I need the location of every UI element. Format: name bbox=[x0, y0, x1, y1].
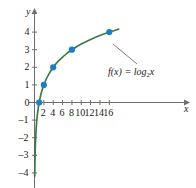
y-tick-label-1: 1 bbox=[25, 80, 30, 90]
y-tick-label--1: –1 bbox=[19, 115, 29, 125]
x-tick-label-8: 8 bbox=[69, 108, 74, 118]
data-point-8-3 bbox=[69, 47, 75, 53]
function-equation-label: f(x) = log2x bbox=[108, 67, 154, 78]
data-point-1-0 bbox=[36, 99, 42, 105]
y-tick-label-2: 2 bbox=[25, 62, 30, 72]
y-tick-label-4: 4 bbox=[25, 27, 30, 37]
logarithmic-function-figure: y x 246810121416 43210–1–2–3–4 f(x) = lo… bbox=[0, 0, 196, 188]
y-axis-arrowhead bbox=[32, 8, 38, 14]
x-tick-label-4: 4 bbox=[50, 108, 55, 118]
y-tick-label--2: –2 bbox=[19, 133, 29, 143]
data-point-4-2 bbox=[50, 64, 56, 70]
data-point-markers bbox=[36, 29, 112, 106]
equation-arg: x bbox=[150, 66, 154, 77]
data-point-2-1 bbox=[41, 82, 47, 88]
y-tick-label-0: 0 bbox=[25, 98, 30, 108]
data-point-16-4 bbox=[106, 29, 112, 35]
annotation-leader-line bbox=[113, 44, 137, 64]
y-tick-label-3: 3 bbox=[25, 45, 30, 55]
y-tick-label--3: –3 bbox=[19, 150, 29, 160]
x-tick-label-16: 16 bbox=[103, 108, 113, 118]
y-tick-label--4: –4 bbox=[19, 168, 29, 178]
x-tick-label-2: 2 bbox=[41, 108, 46, 118]
y-axis-label: y bbox=[26, 7, 30, 17]
x-axis-label: x bbox=[184, 104, 188, 114]
equation-lhs: f(x) = log bbox=[108, 66, 146, 77]
x-tick-label-6: 6 bbox=[60, 108, 65, 118]
